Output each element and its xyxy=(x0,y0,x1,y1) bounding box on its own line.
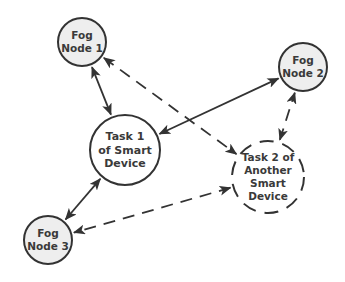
node-label-line: of Smart xyxy=(98,144,152,157)
edge-task2-fog2-dashed xyxy=(280,93,295,140)
node-label-line: Task 1 xyxy=(106,130,145,143)
edge-task1-fog2-solid xyxy=(159,78,278,134)
edge-task1-fog3-solid xyxy=(66,179,101,220)
node-label-line: Fog xyxy=(37,227,58,239)
node-label-line: Node 3 xyxy=(27,240,69,252)
node-label-line: Another xyxy=(244,164,292,176)
edge-task2-fog3-dashed xyxy=(74,188,231,233)
node-label-line: Fog xyxy=(292,54,313,66)
nodes: FogNode 1FogNode 2Task 1of SmartDeviceTa… xyxy=(24,18,327,264)
node-label-line: Device xyxy=(248,190,288,202)
fog-computing-diagram: FogNode 1FogNode 2Task 1of SmartDeviceTa… xyxy=(0,0,345,282)
node-label-line: Task 2 of xyxy=(242,151,295,163)
node-label-line: Fog xyxy=(71,29,92,41)
edge-fog1-task1-solid xyxy=(92,67,111,115)
node-fog3: FogNode 3 xyxy=(24,216,72,264)
node-label-line: Smart xyxy=(250,177,286,189)
node-fog2: FogNode 2 xyxy=(279,43,327,91)
node-label-line: Node 2 xyxy=(282,67,324,79)
node-task1: Task 1of SmartDevice xyxy=(90,115,160,185)
node-label-line: Device xyxy=(104,157,146,170)
node-task2: Task 2 ofAnotherSmartDevice xyxy=(232,141,304,213)
node-label-line: Node 1 xyxy=(61,42,103,54)
node-fog1: FogNode 1 xyxy=(58,18,106,66)
